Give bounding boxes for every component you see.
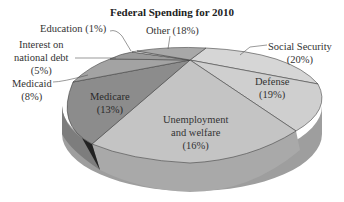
label-interest-line1: Interest on xyxy=(14,38,69,51)
label-interest-line2: national debt xyxy=(14,51,69,64)
label-defense-line1: Defense xyxy=(255,75,289,88)
label-social-security-line2: (20%) xyxy=(268,53,332,66)
label-medicare-line1: Medicare xyxy=(90,90,130,103)
label-unemployment-line2: and welfare xyxy=(163,126,228,139)
label-unemployment-line1: Unemployment xyxy=(163,113,228,126)
label-other-text: Other (18%) xyxy=(146,25,199,36)
label-medicaid: Medicaid (8%) xyxy=(12,77,52,103)
label-unemployment-line3: (16%) xyxy=(163,139,228,152)
leader-education xyxy=(110,31,131,51)
label-medicaid-line1: Medicaid xyxy=(12,77,52,90)
label-unemployment-welfare: Unemployment and welfare (16%) xyxy=(163,113,228,152)
label-defense: Defense (19%) xyxy=(255,75,289,101)
leader-other xyxy=(168,36,170,49)
label-medicare: Medicare (13%) xyxy=(90,90,130,116)
label-defense-line2: (19%) xyxy=(255,88,289,101)
label-medicaid-line2: (8%) xyxy=(12,90,52,103)
label-medicare-line2: (13%) xyxy=(90,103,130,116)
label-interest-line3: (5%) xyxy=(14,64,69,77)
label-social-security: Social Security (20%) xyxy=(268,40,332,66)
label-education: Education (1%) xyxy=(40,22,106,35)
label-education-text: Education (1%) xyxy=(40,23,106,34)
label-social-security-line1: Social Security xyxy=(268,40,332,53)
label-interest-national-debt: Interest on national debt (5%) xyxy=(14,38,69,77)
label-other: Other (18%) xyxy=(146,24,199,37)
